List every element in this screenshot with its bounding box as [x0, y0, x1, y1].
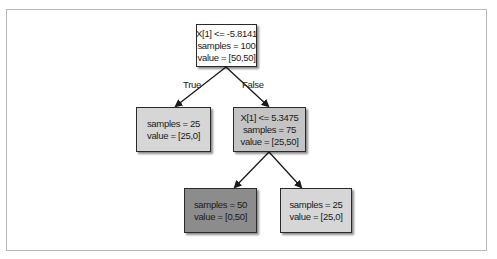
tree-node-right-right-leaf: samples = 25 value = [25,0]: [280, 188, 352, 233]
node-condition: X[1] <= -5.8141: [196, 28, 257, 40]
node-samples: samples = 25: [289, 199, 342, 211]
edge-label-false: False: [242, 79, 264, 90]
edge-label-true: True: [183, 79, 201, 90]
node-samples: samples = 100: [197, 40, 255, 52]
tree-node-right-left-leaf: samples = 50 value = [0,50]: [184, 188, 257, 233]
node-samples: samples = 50: [194, 199, 247, 211]
tree-node-left-leaf: samples = 25 value = [25,0]: [136, 107, 211, 152]
node-samples: samples = 75: [243, 124, 296, 136]
edge-right-to-right-left: [235, 152, 269, 187]
edge-right-to-right-right: [269, 152, 301, 187]
node-value: value = [50,50]: [197, 52, 255, 64]
tree-node-right-split: X[1] <= 5.3475 samples = 75 value = [25,…: [233, 107, 306, 152]
tree-node-root: X[1] <= -5.8141 samples = 100 value = [5…: [196, 24, 257, 67]
node-value: value = [0,50]: [194, 211, 247, 223]
node-condition: X[1] <= 5.3475: [240, 112, 298, 124]
node-samples: samples = 25: [147, 118, 200, 130]
node-value: value = [25,0]: [147, 130, 200, 142]
node-value: value = [25,0]: [289, 211, 342, 223]
node-value: value = [25,50]: [240, 136, 298, 148]
decision-tree-canvas: True False X[1] <= -5.8141 samples = 100…: [0, 0, 497, 259]
